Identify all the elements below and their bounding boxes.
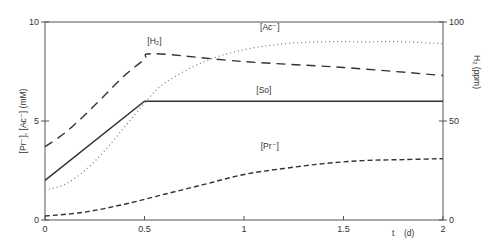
plot-frame	[45, 22, 443, 220]
annotation-label: [Ac⁻]	[260, 22, 280, 32]
y-left-tick-label: 10	[29, 17, 39, 27]
x-tick-label: 1.5	[337, 224, 350, 234]
x-tick-label: 0.5	[138, 224, 151, 234]
annotation-label: [So]	[256, 85, 271, 95]
annotation-label: [H₂]	[147, 36, 161, 46]
x-tick-label: 1	[241, 224, 246, 234]
right-axis-label: H₂ (ppm)	[472, 55, 482, 89]
x-axis-label-unit: (d)	[404, 228, 415, 238]
series-pr	[45, 159, 443, 216]
y-right-tick-label: 100	[449, 17, 464, 27]
y-left-tick-label: 5	[34, 116, 39, 126]
series-so	[45, 101, 443, 180]
y-left-tick-label: 0	[34, 215, 39, 225]
x-tick-label: 0	[42, 224, 47, 234]
annotation-label: [Pr⁻]	[261, 141, 279, 151]
y-right-tick-label: 50	[449, 116, 459, 126]
x-tick-label: 2	[440, 224, 445, 234]
y-right-tick-label: 0	[449, 215, 454, 225]
left-axis-label: [Pr⁻], [Ac⁻] (mM)	[18, 88, 28, 153]
series-ac	[45, 42, 443, 191]
annotations: [H₂][Ac⁻][So][Pr⁻]	[147, 22, 279, 151]
chart: 00.511.520510050100 [H₂][Ac⁻][So][Pr⁻] t…	[0, 0, 488, 246]
series-lines	[45, 42, 443, 216]
x-axis-label-t: t	[392, 228, 395, 238]
